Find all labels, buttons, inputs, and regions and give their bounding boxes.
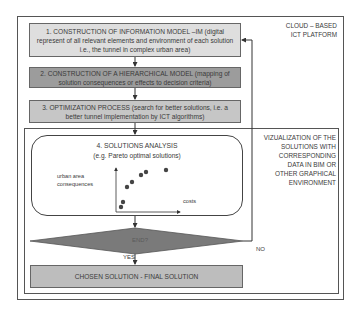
pareto-point (139, 173, 143, 177)
final-solution-box: CHOSEN SOLUTION - FINAL SOLUTION (30, 265, 243, 288)
pareto-point (125, 185, 129, 189)
pareto-points (119, 168, 168, 209)
pareto-point (164, 168, 168, 172)
final-solution-text: CHOSEN SOLUTION - FINAL SOLUTION (75, 272, 199, 281)
no-feedback-arrow (242, 40, 252, 241)
pareto-point (130, 180, 134, 184)
yes-label: YES (123, 253, 135, 262)
pareto-point (121, 200, 125, 204)
pareto-point (119, 205, 123, 209)
pareto-point (144, 170, 148, 174)
no-label: NO (256, 245, 265, 254)
decision-text: END? (125, 236, 155, 245)
